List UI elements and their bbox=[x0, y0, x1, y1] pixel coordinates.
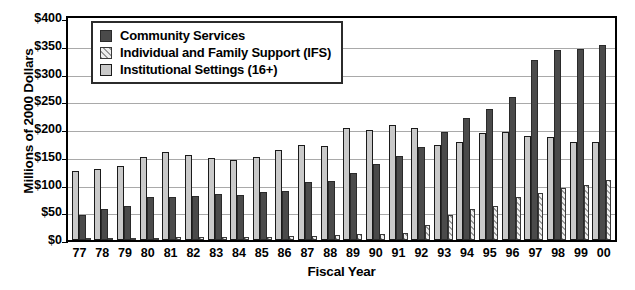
x-axis-tick-label: 00 bbox=[592, 245, 615, 263]
bar-ifs bbox=[538, 193, 543, 240]
bar-ifs bbox=[425, 225, 430, 240]
bar-ifs bbox=[335, 235, 340, 240]
y-axis-tick-label: $150 bbox=[0, 151, 62, 163]
bar-inst bbox=[547, 137, 554, 240]
legend-swatch-inst bbox=[100, 64, 112, 76]
bar-ifs bbox=[86, 238, 91, 240]
x-axis-tick-label: 85 bbox=[250, 245, 273, 263]
bar-comm bbox=[147, 197, 154, 240]
bar-comm bbox=[554, 50, 561, 240]
bar-group bbox=[387, 18, 410, 240]
bar-inst bbox=[479, 133, 486, 240]
bar-ifs bbox=[470, 209, 475, 240]
bar-ifs bbox=[176, 237, 181, 240]
bar-comm bbox=[396, 156, 403, 240]
bar-group bbox=[455, 18, 478, 240]
chart-legend: Community ServicesIndividual and Family … bbox=[91, 21, 343, 84]
x-axis-tick-label: 78 bbox=[91, 245, 114, 263]
x-axis-tick-label: 83 bbox=[205, 245, 228, 263]
bar-comm bbox=[441, 132, 448, 240]
legend-item: Institutional Settings (16+) bbox=[100, 61, 331, 78]
bar-ifs bbox=[108, 238, 113, 240]
bar-comm bbox=[373, 164, 380, 240]
bar-ifs bbox=[154, 238, 159, 240]
bar-ifs bbox=[131, 238, 136, 240]
x-axis-tick-label: 89 bbox=[342, 245, 365, 263]
bar-ifs bbox=[199, 237, 204, 240]
bar-group bbox=[545, 18, 568, 240]
y-axis-tick-label: $200 bbox=[0, 123, 62, 135]
bar-comm bbox=[79, 215, 86, 240]
bar-inst bbox=[230, 160, 237, 240]
x-axis-tick-label: 96 bbox=[501, 245, 524, 263]
bar-comm bbox=[577, 49, 584, 240]
bar-comm bbox=[486, 109, 493, 240]
x-axis-tick-label: 91 bbox=[387, 245, 410, 263]
x-axis-tick-label: 93 bbox=[433, 245, 456, 263]
bar-comm bbox=[599, 45, 606, 240]
x-axis-tick-label: 82 bbox=[182, 245, 205, 263]
bar-ifs bbox=[244, 237, 249, 240]
bar-inst bbox=[275, 150, 282, 240]
bar-group bbox=[342, 18, 365, 240]
bar-comm bbox=[282, 191, 289, 240]
bar-inst bbox=[343, 128, 350, 240]
bar-comm bbox=[418, 147, 425, 240]
x-axis-tick-label: 77 bbox=[68, 245, 91, 263]
x-axis-title: Fiscal Year bbox=[66, 264, 617, 279]
bar-inst bbox=[524, 136, 531, 240]
x-axis-tick-label: 88 bbox=[319, 245, 342, 263]
bar-comm bbox=[305, 182, 312, 240]
x-axis-tick-label: 92 bbox=[410, 245, 433, 263]
bar-group bbox=[523, 18, 546, 240]
legend-swatch-comm bbox=[100, 30, 112, 42]
x-axis-tick-label: 95 bbox=[478, 245, 501, 263]
x-axis-tick-label: 97 bbox=[524, 245, 547, 263]
y-axis-tick-label: $250 bbox=[0, 95, 62, 107]
bar-ifs bbox=[516, 197, 521, 240]
bar-group bbox=[500, 18, 523, 240]
x-axis-tick-label: 84 bbox=[228, 245, 251, 263]
bar-comm bbox=[192, 196, 199, 240]
legend-label: Community Services bbox=[120, 28, 245, 43]
bar-comm bbox=[509, 97, 516, 240]
bar-comm bbox=[101, 209, 108, 240]
bar-inst bbox=[502, 132, 509, 240]
bar-ifs bbox=[403, 233, 408, 240]
legend-label: Institutional Settings (16+) bbox=[120, 62, 277, 77]
bar-ifs bbox=[380, 234, 385, 240]
bar-group bbox=[364, 18, 387, 240]
bar-ifs bbox=[584, 185, 589, 241]
bar-inst bbox=[321, 146, 328, 240]
x-axis-tick-label: 87 bbox=[296, 245, 319, 263]
bar-inst bbox=[162, 152, 169, 240]
bar-inst bbox=[185, 155, 192, 240]
bar-comm bbox=[350, 173, 357, 240]
y-axis-tick-label: $50 bbox=[0, 206, 62, 218]
bar-inst bbox=[117, 166, 124, 240]
y-axis-tick-mark bbox=[62, 242, 68, 243]
bar-inst bbox=[411, 128, 418, 240]
bar-group bbox=[477, 18, 500, 240]
bar-group bbox=[432, 18, 455, 240]
bar-chart: Millions of 2000 Dollars $400$350$300$25… bbox=[0, 0, 635, 290]
bar-comm bbox=[463, 118, 470, 240]
bar-inst bbox=[570, 142, 577, 240]
bar-comm bbox=[124, 206, 131, 240]
x-axis-tick-label: 94 bbox=[456, 245, 479, 263]
bar-inst bbox=[208, 158, 215, 240]
bar-ifs bbox=[561, 188, 566, 240]
bar-ifs bbox=[493, 206, 498, 240]
bar-ifs bbox=[448, 215, 453, 240]
bar-inst bbox=[72, 171, 79, 240]
legend-label: Individual and Family Support (IFS) bbox=[120, 45, 331, 60]
bar-comm bbox=[531, 60, 538, 240]
legend-item: Individual and Family Support (IFS) bbox=[100, 44, 331, 61]
bar-inst bbox=[94, 169, 101, 240]
bar-comm bbox=[215, 194, 222, 240]
bar-inst bbox=[253, 157, 260, 240]
bar-ifs bbox=[289, 236, 294, 240]
bar-ifs bbox=[606, 180, 611, 240]
x-axis-tick-label: 80 bbox=[136, 245, 159, 263]
legend-swatch-ifs bbox=[100, 47, 112, 59]
